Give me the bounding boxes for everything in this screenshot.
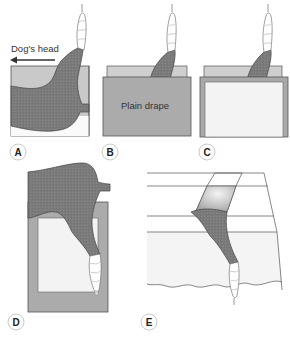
- panel-label-d: D: [12, 317, 19, 328]
- panel-d: D: [8, 163, 110, 330]
- panel-label-b: B: [106, 147, 113, 158]
- panel-label-c: C: [203, 147, 210, 158]
- panel-a: Dog's head A: [10, 4, 89, 160]
- bandage-icon: [77, 13, 86, 50]
- dogs-head-label: Dog's head: [11, 43, 59, 54]
- stockinette: [196, 186, 236, 212]
- panel-c: C: [199, 4, 288, 160]
- panel-b: Plain drape B: [102, 4, 191, 160]
- bandage-icon: [263, 13, 272, 52]
- drape-back: [204, 66, 282, 78]
- panel-e: E: [141, 173, 282, 330]
- bandage-icon: [167, 13, 176, 52]
- drape-back: [107, 66, 187, 78]
- arrow-left-icon: [10, 57, 17, 64]
- draping-diagram: Dog's head A Plain drape B C: [0, 0, 290, 338]
- panel-label-a: A: [14, 147, 21, 158]
- drape-window: [205, 82, 283, 137]
- plain-drape-label: Plain drape: [121, 100, 169, 111]
- panel-label-e: E: [146, 317, 153, 328]
